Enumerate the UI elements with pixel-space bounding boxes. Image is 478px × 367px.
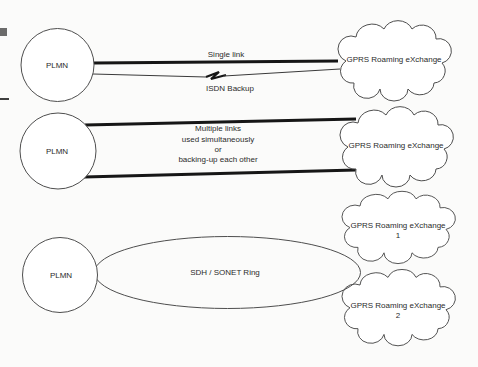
grx-label-3-line2: 1 xyxy=(396,231,401,240)
grx-label-4-line1: GPRS Roaming eXchange xyxy=(350,301,446,310)
single-link-label: Single link xyxy=(208,50,245,59)
plmn-label-2: PLMN xyxy=(46,147,68,156)
ring-label: SDH / SONET Ring xyxy=(190,268,260,277)
isdn-backup-label: ISDN Backup xyxy=(206,84,255,93)
section-single-link xyxy=(93,61,340,79)
grx-label-2: GPRS Roaming eXchange xyxy=(348,141,444,150)
diagram-canvas: PLMN Single link ISDN Backup GPRS Roamin… xyxy=(0,0,478,367)
isdn-backup-line xyxy=(93,69,340,79)
multiple-links-label-line1: Multiple links xyxy=(195,124,241,133)
single-link-line xyxy=(94,61,338,63)
scan-artifact-dash xyxy=(0,98,9,100)
plmn-label-1: PLMN xyxy=(46,61,68,70)
isdn-backup-line-right xyxy=(224,69,340,76)
multiple-links-label-line2: used simultaneously xyxy=(182,135,254,144)
link-break-bolt-icon xyxy=(206,72,226,79)
grx-label-3-line1: GPRS Roaming eXchange xyxy=(350,221,446,230)
multiple-links-label-line4: backing-up each other xyxy=(178,155,258,164)
grx-label-1: GPRS Roaming eXchange xyxy=(346,55,442,64)
network-diagram: PLMN Single link ISDN Backup GPRS Roamin… xyxy=(0,0,478,367)
grx-label-4-line2: 2 xyxy=(396,311,401,320)
isdn-backup-line-left xyxy=(93,74,206,77)
multiple-link-line-bottom xyxy=(84,170,356,177)
plmn-label-3: PLMN xyxy=(50,271,72,280)
scan-artifact-square xyxy=(0,28,7,36)
multiple-links-label-line3: or xyxy=(214,145,221,154)
